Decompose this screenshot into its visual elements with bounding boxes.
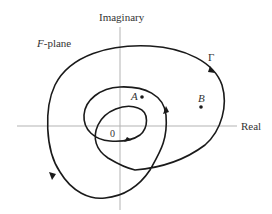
point-a-label: A xyxy=(131,91,138,102)
point-a-dot xyxy=(140,95,144,99)
origin-label: 0 xyxy=(110,129,115,139)
arrow-icon xyxy=(49,172,56,180)
diagram-canvas xyxy=(0,0,272,214)
contour-label: Γ xyxy=(208,52,214,63)
plane-title-prefix: F xyxy=(37,37,44,49)
plane-title: F-plane xyxy=(37,38,71,49)
point-b-dot xyxy=(199,105,203,109)
real-axis-label: Real xyxy=(241,121,261,132)
f-plane-diagram: Imaginary Real F-plane Γ A B 0 xyxy=(0,0,272,214)
point-b-label: B xyxy=(198,93,205,104)
contour-outer-loop xyxy=(48,46,225,199)
arrow-icon xyxy=(124,137,132,142)
plane-title-suffix: -plane xyxy=(44,37,71,49)
imaginary-axis-label: Imaginary xyxy=(99,12,144,23)
